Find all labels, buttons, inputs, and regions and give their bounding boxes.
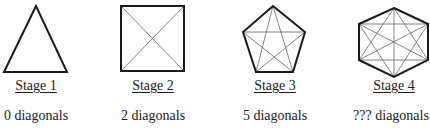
stage-4-diagonal-count: ??? diagonals [353,108,429,124]
stage-3-diagonal-count: 5 diagonals [243,108,307,124]
stage-1-label: Stage 1 [15,78,57,94]
stage-2-label: Stage 2 [132,78,174,94]
square-diagonals [121,6,184,71]
pentagon-shape [243,6,305,72]
stage-2-diagonal-count: 2 diagonals [121,108,185,124]
stage-4-label: Stage 4 [373,78,415,94]
stage-3-label: Stage 3 [254,78,296,94]
square-shape [121,6,184,71]
hexagon-shape [359,8,428,77]
stage-1-diagonal-count: 0 diagonals [4,108,68,124]
triangle-shape [4,6,67,72]
